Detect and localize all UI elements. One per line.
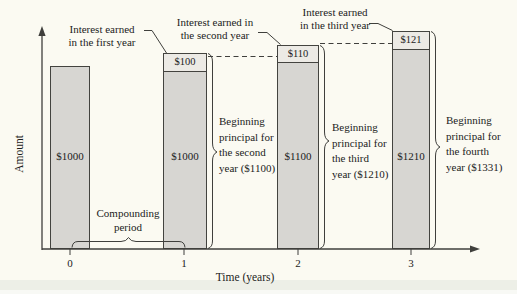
annotation-line: Beginning — [219, 114, 283, 130]
principal-value-year0: $1000 — [50, 150, 90, 162]
annotation-line: the second — [219, 145, 283, 161]
interest-value-year2: $110 — [288, 48, 309, 59]
annotation-line: the third — [332, 151, 396, 167]
bar-year2: $110 — [277, 45, 319, 249]
brace-principal-year4 — [431, 32, 440, 249]
annotation-line: principal for — [446, 129, 514, 145]
annotation-line: Interest earned — [54, 23, 150, 36]
page-bottom-edge — [0, 290, 517, 294]
principal-value-year2: $1100 — [277, 150, 319, 162]
tick-label-1: 1 — [174, 257, 194, 269]
brace-principal-year3 — [320, 46, 329, 249]
annotation-line: principal for — [219, 130, 283, 146]
annotation-interest-year1: Interest earned in the first year — [54, 23, 150, 49]
annotation-compounding-period: Compounding period — [88, 206, 168, 234]
annotation-principal-year3: Beginning principal for the third year (… — [332, 120, 396, 182]
annotation-principal-year2: Beginning principal for the second year … — [219, 114, 283, 176]
interest-value-year3: $121 — [401, 34, 422, 45]
annotation-interest-year2: Interest earned in the second year — [169, 16, 261, 42]
y-axis-arrow-icon — [38, 26, 45, 36]
y-axis-title: Amount — [13, 125, 27, 183]
annotation-interest-year3: Interest earned in the third year — [294, 6, 376, 32]
annotation-line: principal for — [332, 136, 396, 152]
annotation-line: in the third year — [294, 19, 376, 32]
annotation-line: Beginning — [332, 120, 396, 136]
brace-principal-year2 — [208, 54, 217, 249]
x-axis-arrow-icon — [470, 245, 480, 252]
annotation-line: in the first year — [54, 36, 150, 49]
annotation-line: year ($1100) — [219, 161, 283, 177]
compound-interest-figure: $100 $110 $121 $1000 $1000 $1100 $1210 — [0, 0, 517, 294]
annotation-principal-year4: Beginning principal for the fourth year … — [446, 113, 514, 175]
tick-label-0: 0 — [60, 257, 80, 269]
pointer-interest-year2 — [258, 33, 281, 45]
annotation-line: year ($1331) — [446, 160, 514, 176]
tick-label-3: 3 — [401, 257, 421, 269]
bar-year3: $121 — [392, 31, 430, 249]
interest-value-year1: $100 — [175, 56, 196, 67]
annotation-line: the fourth — [446, 144, 514, 160]
annotation-line: period — [88, 220, 168, 234]
annotation-line: Beginning — [446, 113, 514, 129]
annotation-line: Interest earned — [294, 6, 376, 19]
x-axis-title: Time (years) — [205, 271, 285, 283]
interest-box-year3: $121 — [393, 32, 429, 50]
interest-box-year1: $100 — [164, 54, 206, 72]
annotation-line: year ($1210) — [332, 167, 396, 183]
principal-value-year3: $1210 — [392, 150, 430, 162]
annotation-line: the second year — [169, 29, 261, 42]
interest-box-year2: $110 — [278, 46, 318, 63]
annotation-line: Interest earned in — [169, 16, 261, 29]
annotation-line: Compounding — [88, 206, 168, 220]
tick-label-2: 2 — [288, 257, 308, 269]
principal-value-year1: $1000 — [163, 150, 207, 162]
